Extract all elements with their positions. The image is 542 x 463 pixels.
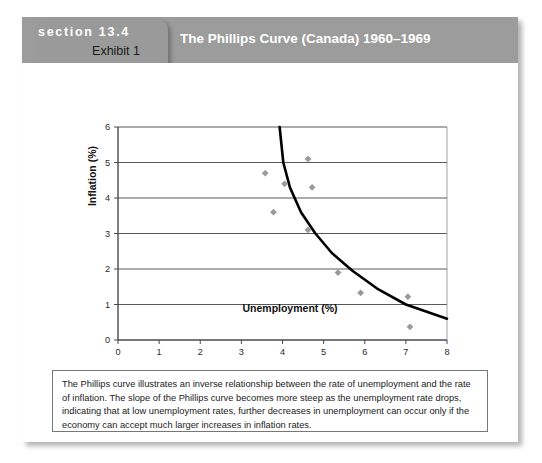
data-point-marker — [357, 289, 364, 296]
phillips-curve-path — [280, 127, 447, 319]
y-tick-label: 6 — [105, 122, 110, 132]
x-tick-label: 5 — [321, 347, 326, 357]
y-tick-label: 3 — [105, 229, 110, 239]
x-tick-label: 4 — [280, 347, 285, 357]
exhibit-card: section 13.4 Exhibit 1 The Phillips Curv… — [22, 17, 518, 442]
x-tick-label: 6 — [362, 347, 367, 357]
section-number-label: section 13.4 — [38, 25, 130, 39]
data-point-marker — [270, 209, 277, 216]
x-tick-label: 8 — [444, 347, 449, 357]
x-tick-label: 1 — [157, 347, 162, 357]
data-point-marker — [309, 184, 316, 191]
caption-box: The Phillips curve illustrates an invers… — [52, 370, 488, 432]
y-tick-label: 4 — [105, 193, 110, 203]
y-tick-label: 1 — [105, 300, 110, 310]
data-point-marker — [262, 170, 269, 177]
data-point-marker — [335, 269, 342, 276]
y-tick-label: 0 — [105, 335, 110, 345]
data-point-marker — [305, 156, 312, 163]
y-tick-label: 2 — [105, 264, 110, 274]
chart-container: 0123456012345678 Unemployment (%) Inflat… — [22, 63, 518, 373]
x-tick-label: 0 — [115, 347, 120, 357]
data-point-marker — [281, 180, 288, 187]
chart-tick-labels: 0123456012345678 — [105, 122, 450, 357]
y-tick-label: 5 — [105, 158, 110, 168]
phillips-curve-chart: 0123456012345678 Unemployment (%) Inflat… — [22, 63, 518, 373]
y-axis-label: Inflation (%) — [86, 146, 98, 206]
data-point-marker — [407, 323, 414, 330]
x-tick-label: 7 — [403, 347, 408, 357]
exhibit-title: The Phillips Curve (Canada) 1960–1969 — [180, 31, 431, 46]
exhibit-root: section 13.4 Exhibit 1 The Phillips Curv… — [0, 0, 542, 463]
data-point-marker — [405, 293, 412, 300]
x-axis-label: Unemployment (%) — [242, 302, 337, 314]
x-tick-label: 2 — [198, 347, 203, 357]
exhibit-number-label: Exhibit 1 — [36, 44, 140, 58]
phillips-curve-line — [280, 127, 447, 319]
caption-text: The Phillips curve illustrates an invers… — [62, 378, 478, 432]
x-tick-label: 3 — [239, 347, 244, 357]
